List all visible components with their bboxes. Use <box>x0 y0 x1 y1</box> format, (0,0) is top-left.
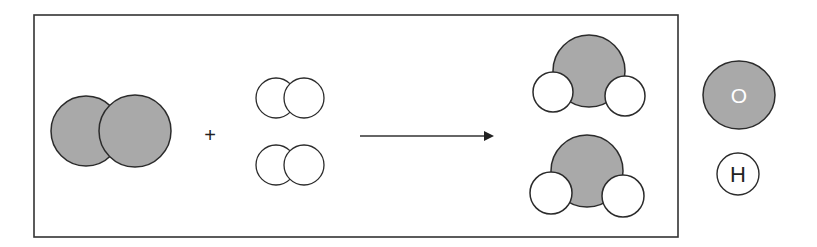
hydrogen-atom <box>605 76 645 116</box>
legend: O H <box>703 61 775 195</box>
hydrogen-atom <box>284 145 324 185</box>
reaction-diagram: + O H <box>0 0 817 247</box>
hydrogen-atom <box>602 175 644 217</box>
legend-oxygen: O <box>703 61 775 129</box>
legend-hydrogen: H <box>717 153 759 195</box>
hydrogen-atom <box>284 78 324 118</box>
oxygen-atom <box>99 95 171 167</box>
water-molecule-product-1 <box>533 35 645 116</box>
plus-sign: + <box>204 124 216 146</box>
water-molecule-product-2 <box>530 135 644 217</box>
hydrogen-symbol: H <box>730 162 746 187</box>
reaction-arrow-icon <box>360 131 494 141</box>
hydrogen-molecule-reactant-2 <box>256 145 324 185</box>
hydrogen-atom <box>530 172 572 214</box>
hydrogen-molecule-reactant-1 <box>256 78 324 118</box>
oxygen-molecule-reactant <box>51 95 171 167</box>
hydrogen-atom <box>533 72 573 112</box>
oxygen-symbol: O <box>731 84 747 107</box>
